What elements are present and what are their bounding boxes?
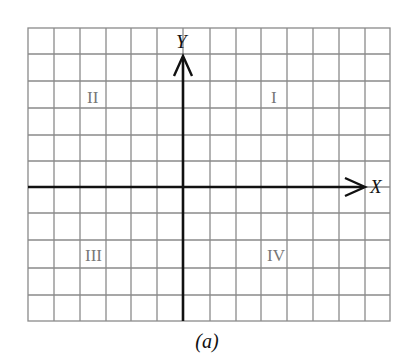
figure-caption: (a)	[195, 330, 219, 353]
x-axis-label: X	[369, 176, 383, 197]
quadrant-labels: I II III IV	[85, 88, 286, 265]
cartesian-diagram: X Y I II III IV (a)	[0, 0, 411, 358]
quadrant-2-label: II	[87, 88, 99, 107]
y-axis-label: Y	[176, 31, 189, 52]
x-axis: X	[28, 176, 383, 197]
grid	[28, 28, 390, 321]
y-axis: Y	[174, 31, 192, 321]
quadrant-1-label: I	[271, 88, 277, 107]
quadrant-3-label: III	[85, 246, 102, 265]
quadrant-4-label: IV	[267, 246, 286, 265]
